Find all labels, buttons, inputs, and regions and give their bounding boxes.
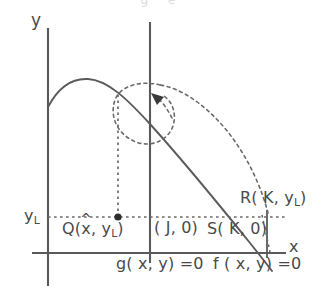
y-level-label: yL bbox=[24, 208, 40, 227]
hat-accent-icon: ^ bbox=[80, 213, 92, 227]
trajectory-arrowhead-icon bbox=[151, 93, 164, 105]
curve-f-label: f ( x, y) =0 bbox=[213, 256, 301, 272]
x-axis-label: x bbox=[289, 239, 299, 255]
curve-g-label: g( x, y) =0 bbox=[116, 256, 204, 272]
point-j-label: ( J, 0) bbox=[154, 220, 198, 236]
trajectory-loop bbox=[113, 83, 174, 144]
curve-f-solid bbox=[48, 79, 272, 271]
point-q-label: Q(^x, yL) bbox=[62, 221, 124, 240]
point-r-label: R( K, yL) bbox=[240, 190, 307, 209]
y-axis-label: y bbox=[31, 12, 41, 29]
point-s-label: S( K, 0) bbox=[207, 221, 267, 237]
